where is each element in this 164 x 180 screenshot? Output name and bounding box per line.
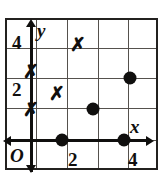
gridline-vertical-x1 [36, 20, 37, 168]
y-axis-arrow-down-icon [26, 165, 36, 173]
x-axis-arrow-right-icon [146, 136, 154, 146]
y-axis-label: y [37, 21, 45, 40]
data-point-dot [124, 72, 137, 85]
x-tick-label-2: 2 [68, 150, 78, 169]
gridline-vertical-x2 [67, 20, 68, 168]
x-tick-label-4: 4 [128, 150, 138, 169]
coordinate-plane-figure: ✗ ✗ ✗ ✗ 4 2 2 4 y x O [0, 0, 164, 180]
data-point-xmark: ✗ [49, 84, 65, 103]
data-point-dot [56, 134, 69, 147]
data-point-xmark: ✗ [23, 62, 39, 81]
y-tick-label-2: 2 [12, 80, 22, 99]
data-point-xmark: ✗ [23, 100, 39, 119]
y-tick-label-4: 4 [12, 33, 22, 52]
data-point-xmark: ✗ [70, 35, 86, 54]
gridline-vertical-x4 [128, 20, 129, 168]
x-axis-label: x [130, 117, 140, 136]
origin-label: O [10, 146, 24, 165]
gridline-vertical-x3 [98, 20, 99, 168]
data-point-dot [87, 103, 100, 116]
y-axis-arrow-up-icon [26, 19, 36, 27]
data-point-dot [118, 134, 131, 147]
